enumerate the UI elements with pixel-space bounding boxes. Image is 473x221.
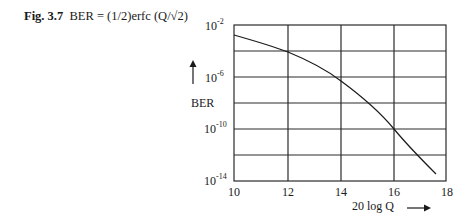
x-tick-18: 18 bbox=[441, 185, 453, 200]
grid bbox=[234, 25, 446, 181]
y-axis-arrow-icon bbox=[190, 60, 197, 84]
ber-curve bbox=[234, 35, 436, 174]
x-tick-14: 14 bbox=[335, 185, 347, 200]
y-tick-1e-10: 10-10 bbox=[204, 120, 227, 137]
x-tick-16: 16 bbox=[388, 185, 400, 200]
x-tick-10: 10 bbox=[228, 185, 240, 200]
y-tick-1e-6: 10-6 bbox=[205, 69, 224, 86]
x-axis-arrow-icon bbox=[407, 205, 431, 212]
x-tick-12: 12 bbox=[282, 185, 294, 200]
y-tick-1e-14: 10-14 bbox=[204, 172, 227, 189]
x-axis-label: 20 log Q bbox=[352, 199, 394, 214]
y-axis-label: BER bbox=[191, 96, 214, 111]
y-tick-1e-2: 10-2 bbox=[205, 17, 224, 34]
